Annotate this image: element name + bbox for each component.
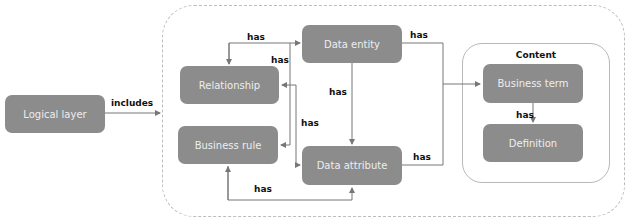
node-business-term[interactable]: Business term xyxy=(483,64,583,103)
node-logical-layer[interactable]: Logical layer xyxy=(5,95,105,133)
node-business-rule[interactable]: Business rule xyxy=(178,126,278,164)
diagram-canvas: Content xyxy=(0,0,628,224)
node-relationship[interactable]: Relationship xyxy=(180,66,279,104)
node-data-attribute[interactable]: Data attribute xyxy=(302,146,402,185)
edge-label-has-attribute-relationship: has xyxy=(301,118,319,128)
edge-label-has-side: has xyxy=(271,55,289,65)
node-definition[interactable]: Definition xyxy=(483,124,583,162)
edge-label-includes: includes xyxy=(111,98,153,108)
edge-label-has-attribute-content: has xyxy=(413,152,431,162)
edge-label-has-top: has xyxy=(247,32,265,42)
edge-label-has-term-definition: has xyxy=(516,110,534,120)
edge-label-has-bottom: has xyxy=(254,184,272,194)
edge-label-has-entity-content: has xyxy=(410,30,428,40)
node-data-entity[interactable]: Data entity xyxy=(302,25,402,63)
edge-label-has-entity-attribute: has xyxy=(329,87,347,97)
